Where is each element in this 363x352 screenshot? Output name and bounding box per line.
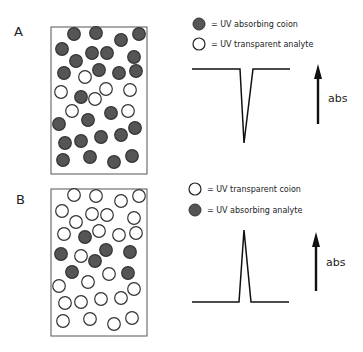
arrow-up-icon (314, 64, 322, 79)
open-circle-icon (189, 183, 201, 195)
legend-a: = UV absorbing coion = UV transparent an… (193, 18, 313, 50)
arrow-up-icon (312, 232, 320, 247)
panel-label-a: A (14, 24, 23, 39)
panel-b: B = UV transparent coion = UV absorbing … (16, 183, 346, 336)
filled-circle-icon (193, 18, 205, 30)
indirect-detection-diagram: A = UV absorbing coion = UV transparent … (0, 0, 363, 352)
legend-text: = UV transparent analyte (211, 40, 313, 49)
panel-label-b: B (16, 192, 25, 207)
axis-label-abs: abs (328, 92, 348, 105)
legend-text: = UV absorbing analyte (207, 206, 302, 215)
legend-b: = UV transparent coion = UV absorbing an… (189, 183, 302, 216)
open-circle-icon (193, 38, 205, 50)
particles-b (53, 189, 146, 331)
axis-label-abs: abs (326, 256, 346, 269)
detector-trace-negative-peak (192, 69, 290, 143)
panel-a: A = UV absorbing coion = UV transparent … (14, 18, 348, 174)
legend-text: = UV transparent coion (207, 185, 301, 194)
filled-circle-icon (189, 204, 201, 216)
detector-trace-positive-peak (192, 230, 289, 302)
legend-text: = UV absorbing coion (211, 20, 298, 29)
particles-a (53, 27, 146, 169)
